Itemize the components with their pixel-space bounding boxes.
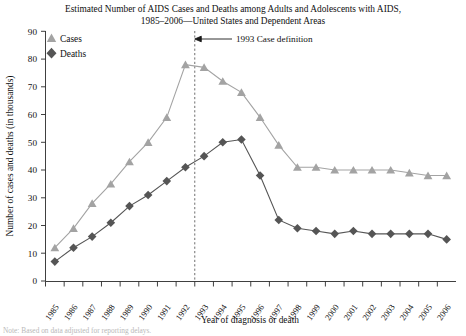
data-point-deaths-2002 [368,230,377,239]
data-point-deaths-1995 [237,135,246,144]
data-point-deaths-1994 [218,138,227,147]
y-axis-ticks [41,31,46,281]
data-point-deaths-2003 [386,230,395,239]
y-tick-label-30: 30 [28,193,38,203]
x-tick-label-2002: 2002 [360,302,378,322]
chart-plot-area: 90 80 70 60 50 40 30 20 10 0 Number of c… [0,0,466,336]
data-point-deaths-1991 [162,177,171,186]
x-axis-ticks [46,282,438,287]
data-point-deaths-1993 [200,152,209,161]
y-axis-tick-labels: 90 80 70 60 50 40 30 20 10 0 [28,27,38,287]
data-point-cases-1991 [162,113,171,121]
series-deaths [51,135,451,266]
data-point-deaths-1987 [88,232,97,241]
x-tick-label-2004: 2004 [397,302,415,322]
x-tick-label-1986: 1986 [62,302,80,322]
y-tick-label-10: 10 [28,249,38,259]
y-tick-label-70: 70 [28,82,38,92]
data-point-deaths-2001 [349,227,358,236]
data-point-deaths-2000 [330,230,339,239]
y-tick-label-60: 60 [28,110,38,120]
x-tick-label-1992: 1992 [174,302,192,322]
y-tick-label-90: 90 [28,27,38,37]
data-point-cases-1986 [69,224,78,232]
chart-note: Note: Based on data adjusted for reporti… [3,326,151,335]
data-point-deaths-1996 [256,171,265,180]
chart-legend: Cases Deaths [47,34,87,59]
x-tick-label-1987: 1987 [80,302,98,322]
data-point-deaths-2005 [424,230,433,239]
data-point-deaths-2006 [442,235,451,244]
x-tick-label-2003: 2003 [379,302,397,322]
x-tick-label-1991: 1991 [155,302,173,322]
x-tick-label-2006: 2006 [435,302,453,322]
x-tick-label-2001: 2001 [341,302,359,322]
data-point-cases-1996 [256,113,265,121]
data-point-deaths-1990 [144,191,153,200]
y-axis-title: Number of cases and deaths (in thousands… [5,76,16,237]
x-tick-label-1985: 1985 [43,302,61,322]
data-point-cases-1995 [237,88,246,96]
x-tick-label-1989: 1989 [118,302,136,322]
data-point-deaths-1985 [51,257,60,266]
x-tick-label-2005: 2005 [416,302,434,322]
y-tick-label-80: 80 [28,54,38,64]
x-axis-title: Year of diagnosis or death [201,315,299,325]
data-point-deaths-1997 [274,216,283,225]
legend-label-cases: Cases [60,34,82,44]
case-definition-annotation-label: 1993 Case definition [236,34,313,44]
x-tick-label-1988: 1988 [99,302,117,322]
y-tick-label-40: 40 [28,165,38,175]
y-tick-label-0: 0 [32,276,37,286]
aids-cases-deaths-chart: Estimated Number of AIDS Cases and Death… [0,0,466,336]
legend-label-deaths: Deaths [60,49,86,59]
x-tick-label-1990: 1990 [136,302,154,322]
data-point-cases-1997 [274,141,283,149]
y-tick-label-50: 50 [28,138,38,148]
case-definition-annotation: 1993 Case definition [195,34,313,44]
data-point-cases-1992 [181,61,190,69]
data-point-deaths-1992 [181,163,190,172]
legend-marker-deaths-icon [47,48,57,59]
legend-marker-cases-icon [47,34,56,43]
y-tick-label-20: 20 [28,221,38,231]
data-point-deaths-1986 [69,243,78,252]
data-point-cases-1990 [144,138,153,146]
data-point-deaths-1998 [293,224,302,233]
x-tick-label-1999: 1999 [304,302,322,322]
x-tick-label-2000: 2000 [323,302,341,322]
data-point-deaths-1999 [312,227,321,236]
data-point-deaths-2004 [405,230,414,239]
